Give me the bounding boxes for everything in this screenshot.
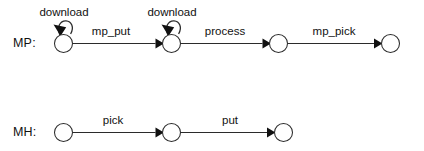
edge-label-process: process bbox=[205, 25, 246, 37]
edge-label-download-mp-s1: download bbox=[147, 6, 196, 18]
row-mp: MP: mp_put process mp_pick bbox=[13, 6, 400, 53]
row-mh: MH: pick put bbox=[13, 114, 293, 142]
state-node-mp-s2[interactable] bbox=[270, 35, 288, 53]
edge-label-mp-pick: mp_pick bbox=[313, 25, 356, 37]
state-node-mh-s1[interactable] bbox=[163, 124, 181, 142]
transition-put: put bbox=[181, 114, 276, 138]
state-node-mp-s3[interactable] bbox=[382, 35, 400, 53]
diagram-canvas: MP: mp_put process mp_pick bbox=[0, 0, 424, 151]
transition-mp-put: mp_put bbox=[73, 25, 165, 49]
row-label-mh: MH: bbox=[13, 125, 37, 139]
transition-mp-pick: mp_pick bbox=[288, 25, 383, 49]
self-loop-download-mp-s0: download bbox=[39, 6, 88, 36]
state-node-mp-s0[interactable] bbox=[55, 35, 73, 53]
row-label-mp: MP: bbox=[13, 36, 36, 50]
transition-process: process bbox=[181, 25, 272, 49]
state-node-mh-s2[interactable] bbox=[275, 124, 293, 142]
state-node-mh-s0[interactable] bbox=[55, 124, 73, 142]
edge-label-download-mp-s0: download bbox=[39, 6, 88, 18]
state-node-mp-s1[interactable] bbox=[163, 35, 181, 53]
state-machine-diagram: MP: mp_put process mp_pick bbox=[0, 0, 424, 151]
transition-pick: pick bbox=[73, 114, 165, 138]
edge-label-put: put bbox=[222, 114, 239, 126]
edge-label-mp-put: mp_put bbox=[92, 25, 131, 37]
edge-label-pick: pick bbox=[103, 114, 124, 126]
self-loop-download-mp-s1: download bbox=[147, 6, 196, 36]
